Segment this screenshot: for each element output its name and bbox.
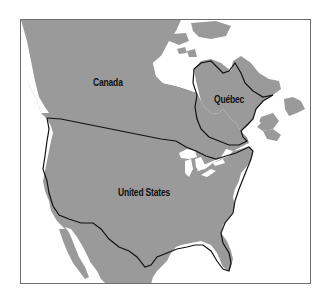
map-frame: Canada Québec United States bbox=[20, 19, 311, 284]
arctic-island-1 bbox=[191, 21, 231, 39]
label-canada: Canada bbox=[93, 77, 123, 88]
maritimes bbox=[257, 113, 279, 131]
landmass bbox=[21, 20, 253, 284]
newfoundland bbox=[284, 97, 305, 116]
nova-scotia bbox=[263, 129, 281, 141]
label-quebec: Québec bbox=[214, 94, 244, 105]
north-america-map bbox=[21, 20, 311, 284]
label-united-states: United States bbox=[118, 187, 170, 198]
